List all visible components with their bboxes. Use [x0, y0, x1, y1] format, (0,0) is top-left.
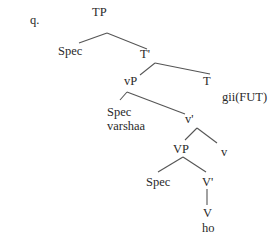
edge-tp-spec [79, 33, 107, 43]
node-vp: vP [124, 75, 137, 88]
edge-vpbig-vbarbig [183, 157, 206, 172]
edge-vbar-v [197, 128, 217, 143]
node-tbar: T' [140, 48, 150, 61]
edge-vp-vbar [127, 92, 185, 114]
syntax-tree-diagram: q. TP Spec T' vP T gii(FUT) Spec varshaa… [0, 0, 279, 244]
edge-tbar-t [155, 63, 210, 74]
edge-tbar-vp [140, 63, 155, 75]
node-v-word: ho [202, 222, 215, 235]
node-tp: TP [92, 6, 107, 19]
edge-vp-spec [120, 92, 127, 100]
node-spec-vp-word: varshaa [107, 120, 145, 133]
node-vp-big: VP [173, 143, 189, 156]
node-v-head: V [203, 207, 212, 220]
node-spec-vp-big: Spec [146, 176, 170, 189]
node-spec-vp: Spec [107, 106, 131, 119]
edge-vpbig-spec [158, 157, 183, 172]
node-vbar: v' [185, 113, 194, 126]
node-t: T [203, 75, 211, 88]
node-v: v [221, 146, 227, 159]
node-t-word: gii(FUT) [222, 91, 267, 104]
node-spec-tp: Spec [58, 45, 82, 58]
node-vbar-big: V' [202, 176, 213, 189]
edge-vbar-vpbig [185, 128, 197, 140]
example-label: q. [30, 14, 39, 27]
